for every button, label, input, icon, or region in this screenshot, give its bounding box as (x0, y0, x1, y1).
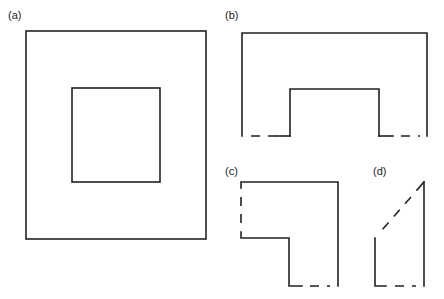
diagram-canvas: (a) (b) (c) (d) (0, 0, 444, 299)
inner-edge (375, 238, 386, 286)
inner-edge (290, 89, 379, 136)
panel-a: (a) (8, 9, 206, 239)
panel-a-label: (a) (8, 9, 21, 21)
outer-edge (242, 33, 427, 136)
panel-c-label: (c) (225, 165, 238, 177)
diagonal-start (417, 182, 424, 190)
panel-d-label: (d) (373, 165, 386, 177)
inner-square (72, 88, 160, 182)
panel-b-label: (b) (225, 9, 238, 21)
inner-edge (241, 232, 302, 286)
panel-d: (d) (373, 165, 424, 286)
cut-line-diagonal (382, 197, 411, 230)
panel-c: (c) (225, 165, 338, 286)
panel-b: (b) (225, 9, 427, 136)
outer-square (26, 31, 206, 239)
